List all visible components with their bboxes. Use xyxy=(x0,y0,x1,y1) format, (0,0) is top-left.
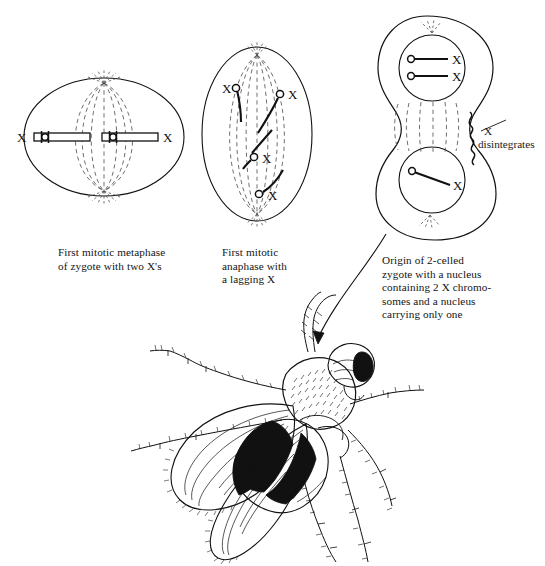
annotation-line-1: X xyxy=(484,125,545,138)
x-label-anaphase-top-left: X xyxy=(222,81,232,96)
panel-anaphase xyxy=(202,42,312,227)
chromosome-top-nucleus-2 xyxy=(408,73,448,80)
x-label-anaphase-top-right: X xyxy=(288,87,298,102)
disintegrating-chromosome-squiggle xyxy=(469,112,475,165)
x-label-anaphase-lagging: X xyxy=(262,151,272,166)
chromosome-top-right-anaphase xyxy=(258,90,284,133)
chromosome-top-nucleus-1 xyxy=(408,56,448,63)
aster-rays-two-celled xyxy=(419,20,441,228)
x-label-bottom-nucleus: X xyxy=(453,178,463,193)
x-label-metaphase-right: X xyxy=(163,130,173,145)
caption-metaphase: First mitotic metaphase of zygote with t… xyxy=(58,246,208,273)
fly-head xyxy=(328,343,374,399)
chromosome-x-labels: X X X X X X X X X xyxy=(17,52,463,203)
x-label-metaphase-left: X xyxy=(17,130,27,145)
fly-scutellum xyxy=(318,426,349,458)
fly-eye xyxy=(353,352,373,381)
chromosome-right-metaphase xyxy=(102,131,158,143)
chromosome-left-metaphase xyxy=(34,131,90,143)
panel-metaphase xyxy=(24,70,184,204)
x-label-top-nucleus-2: X xyxy=(452,69,462,84)
x-label-top-nucleus-1: X xyxy=(452,52,462,67)
annotation-line-2: disintegrates xyxy=(478,138,545,151)
drosophila-fly xyxy=(131,292,424,564)
fly-abdomen xyxy=(233,419,328,512)
nucleus-top xyxy=(399,35,465,101)
cell-membrane-two-celled xyxy=(376,16,496,240)
annotation-x-disintegrates: X disintegrates xyxy=(484,125,545,151)
x-label-anaphase-bottom: X xyxy=(268,188,278,203)
chromosome-top-left-anaphase xyxy=(232,84,241,122)
caption-anaphase: First mitotic anaphase with a lagging X xyxy=(222,246,332,287)
chromosome-bottom-nucleus-1 xyxy=(409,168,450,185)
caption-two-celled-zygote: Origin of 2-celled zygote with a nucleus… xyxy=(382,254,532,322)
spindle-fibers-two-celled xyxy=(395,102,459,152)
